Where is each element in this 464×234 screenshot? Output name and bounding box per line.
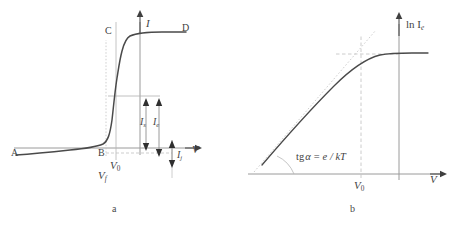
v0-subscript-a: 0 (117, 165, 121, 173)
tg-text: tg (296, 151, 304, 162)
panel-b-plasma-voltage-label: V0 (354, 180, 364, 193)
vf-subscript: f (105, 175, 107, 183)
panel-b-angle-arc (277, 156, 294, 174)
is-subscript: s (143, 121, 146, 128)
panel-b-y-axis-label: ln Ie (406, 19, 424, 32)
panel-a-point-d-label: D (182, 23, 189, 33)
panel-a-floating-voltage-label: Vf (98, 170, 107, 183)
alpha-symbol: α (305, 151, 311, 162)
panel-a-saturation-current-label: Is (140, 117, 146, 128)
vf-symbol: V (98, 169, 105, 181)
panel-a-ij-arrow (169, 140, 175, 168)
panel-a-point-b-label: B (98, 148, 105, 158)
panel-b-x-axis-label: V (430, 174, 437, 185)
slope-expression: e / kT (323, 151, 346, 162)
v0-symbol-a: V (110, 159, 117, 171)
equals-sign: = (314, 151, 320, 162)
panel-a-ion-current-label: Ij (177, 150, 182, 161)
panel-a-caption: a (112, 204, 116, 214)
panel-a-voltage-axis-label: V (192, 144, 199, 155)
panel-a-plot (14, 16, 197, 178)
panel-a-iv-curve (16, 32, 186, 155)
ie-subscript: e (156, 121, 159, 128)
panel-b-log-curve (262, 53, 428, 165)
ln-ie-subscript: e (421, 24, 424, 32)
figure-container: A B C D I V Vf V0 Is Ie Ij a ln Ie V V0 … (0, 0, 464, 234)
ij-subscript: j (180, 154, 182, 161)
panel-a-plasma-voltage-label: V0 (110, 160, 120, 173)
figure-svg (0, 0, 464, 234)
panel-a-point-a-label: A (11, 148, 18, 158)
panel-a-electron-current-label: Ie (153, 117, 159, 128)
ln-text: ln I (406, 18, 421, 30)
v0-symbol-b: V (354, 179, 361, 191)
panel-b-slope-formula: tgα=e / kT (296, 152, 346, 163)
v0-subscript-b: 0 (361, 185, 365, 193)
panel-b-caption: b (350, 204, 355, 214)
panel-a-point-c-label: C (105, 26, 112, 36)
panel-a-current-axis-label: I (146, 18, 150, 29)
